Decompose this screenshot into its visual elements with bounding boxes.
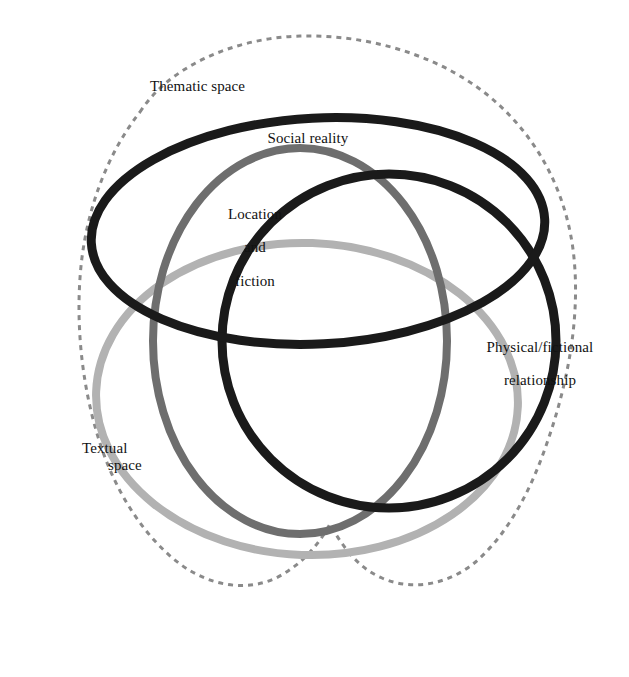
label-location-line-2: and — [244, 239, 266, 255]
label-textual-space: Textual space — [82, 423, 192, 490]
label-location-line-3: fiction — [235, 273, 275, 289]
label-physical-line-2: relationship — [504, 372, 576, 388]
label-physical-fictional-relationship: Physical/fictional relationship — [455, 322, 625, 389]
label-location-and-fiction: Location and fiction — [200, 189, 310, 290]
label-textual-line-2: space — [82, 457, 192, 474]
diagram-canvas: Thematic space Social reality Location a… — [0, 0, 629, 677]
label-location-line-1: Location — [228, 206, 282, 222]
label-physical-line-1: Physical/fictional — [487, 339, 594, 355]
label-textual-line-1: Textual — [82, 440, 127, 456]
label-thematic-space: Thematic space — [150, 78, 330, 95]
label-social-reality: Social reality — [228, 130, 388, 147]
